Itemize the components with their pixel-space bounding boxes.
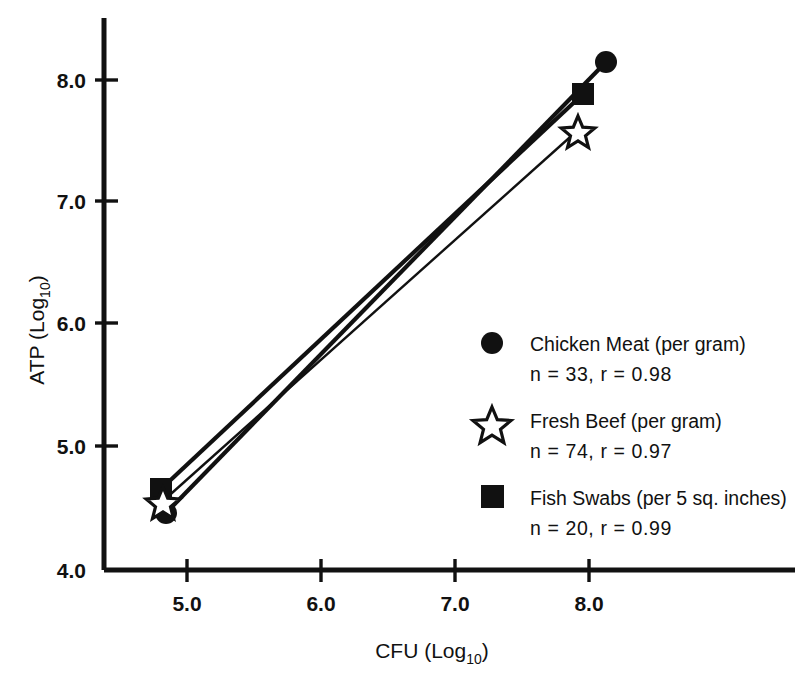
data-point-chicken-meat-end xyxy=(595,51,617,73)
legend-entry-fish-swabs: Fish Swabs (per 5 sq. inches) n = 20, r … xyxy=(481,485,787,539)
x-axis-title-base: CFU (Log xyxy=(375,639,466,662)
y-axis-title-text: ATP (Log10) xyxy=(25,275,53,384)
legend-stat-fresh-beef: n = 74, r = 0.97 xyxy=(530,440,672,462)
y-axis-title-subscript: 10 xyxy=(37,282,53,298)
x-axis-title-subscript: 10 xyxy=(466,651,482,667)
x-axis-title-close: ) xyxy=(482,639,489,662)
chart-figure: 8.0 7.0 6.0 5.0 4.0 5.0 6.0 7.0 8.0 ATP … xyxy=(0,0,803,684)
x-axis-title: CFU (Log10) xyxy=(375,639,489,667)
y-tick-label-7: 7.0 xyxy=(57,190,86,213)
legend-stat-fish-swabs: n = 20, r = 0.99 xyxy=(530,517,672,539)
legend-label-fresh-beef: Fresh Beef (per gram) xyxy=(530,410,722,432)
x-tick-label-5: 5.0 xyxy=(172,592,201,615)
data-point-fresh-beef-end xyxy=(561,116,595,148)
x-tick-label-7: 7.0 xyxy=(440,592,469,615)
legend-entry-fresh-beef: Fresh Beef (per gram) n = 74, r = 0.97 xyxy=(473,407,722,462)
series-line-fresh-beef xyxy=(163,130,578,501)
y-tick-label-4: 4.0 xyxy=(57,559,86,582)
legend-label-chicken-meat: Chicken Meat (per gram) xyxy=(530,333,746,355)
legend-label-fish-swabs: Fish Swabs (per 5 sq. inches) xyxy=(530,487,787,509)
x-axis-tick-labels: 5.0 6.0 7.0 8.0 xyxy=(172,592,603,615)
y-axis-title: ATP (Log10) xyxy=(25,275,53,384)
legend-marker-filled-circle-icon xyxy=(481,332,503,354)
y-axis-tick-labels: 8.0 7.0 6.0 5.0 4.0 xyxy=(57,69,86,582)
y-axis-title-close: ) xyxy=(25,275,48,282)
y-tick-label-8: 8.0 xyxy=(57,69,86,92)
x-tick-label-6: 6.0 xyxy=(306,592,335,615)
x-tick-label-8: 8.0 xyxy=(574,592,603,615)
legend-marker-filled-square-icon xyxy=(481,485,504,508)
y-axis-title-base: ATP (Log xyxy=(25,298,48,385)
data-point-fish-swabs-end xyxy=(572,83,594,105)
legend-entry-chicken-meat: Chicken Meat (per gram) n = 33, r = 0.98 xyxy=(481,332,746,385)
legend-stat-chicken-meat: n = 33, r = 0.98 xyxy=(530,363,672,385)
chart-legend: Chicken Meat (per gram) n = 33, r = 0.98… xyxy=(473,332,787,539)
x-axis-title-text: CFU (Log10) xyxy=(375,639,489,667)
atp-cfu-scatter-line-chart: 8.0 7.0 6.0 5.0 4.0 5.0 6.0 7.0 8.0 ATP … xyxy=(0,0,803,684)
y-tick-label-5: 5.0 xyxy=(57,435,86,458)
legend-marker-open-star-icon xyxy=(473,407,511,443)
y-tick-label-6: 6.0 xyxy=(57,312,86,335)
